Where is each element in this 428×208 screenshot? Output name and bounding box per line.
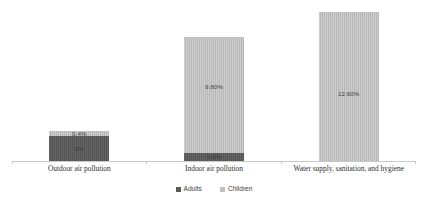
bar-stack-water-supply-sanitation-hygiene[interactable]: 12.60% <box>319 12 379 161</box>
bar-slot-indoor-air-pollution: 9.80% 0.4% <box>147 4 282 161</box>
x-axis-tick-start <box>12 161 13 164</box>
legend-label-adults: Adults <box>184 186 202 193</box>
bar-segment-children-water-supply[interactable]: 12.60% <box>319 12 379 161</box>
bar-stack-indoor-air-pollution[interactable]: 9.80% 0.4% <box>184 37 244 161</box>
category-label-indoor-air-pollution: Indoor air pollution <box>147 165 282 173</box>
bar-label-adults-outdoor: 2% <box>49 145 109 151</box>
stacked-bar-chart: 0.4% 2% 9.80% 0.4% <box>0 0 428 208</box>
legend-item-adults[interactable]: Adults <box>176 186 202 193</box>
legend-swatch-children-icon <box>220 187 225 192</box>
category-label-outdoor-air-pollution: Outdoor air pollution <box>12 165 147 173</box>
chart-legend: Adults Children <box>0 186 428 193</box>
x-axis-tick-1 <box>146 161 147 164</box>
x-axis-tick-2 <box>281 161 282 164</box>
legend-item-children[interactable]: Children <box>220 186 253 193</box>
bar-slot-outdoor-air-pollution: 0.4% 2% <box>12 4 147 161</box>
bar-segment-adults-outdoor[interactable]: 2% <box>49 136 109 161</box>
bar-slot-water-supply-sanitation-hygiene: 12.60% <box>281 4 416 161</box>
bar-label-children-indoor: 9.80% <box>184 84 244 90</box>
bar-label-adults-indoor: 0.4% <box>184 154 244 160</box>
legend-swatch-adults-icon <box>176 187 181 192</box>
bar-label-children-water-supply: 12.60% <box>319 91 379 97</box>
plot-area: 0.4% 2% 9.80% 0.4% <box>12 4 416 161</box>
x-axis-tick-end <box>415 161 416 164</box>
x-axis-category-labels: Outdoor air pollution Indoor air polluti… <box>12 165 416 173</box>
bar-segment-children-indoor[interactable]: 9.80% <box>184 37 244 153</box>
bar-segment-adults-indoor[interactable]: 0.4% <box>184 153 244 161</box>
legend-label-children: Children <box>228 186 253 193</box>
bar-stack-outdoor-air-pollution[interactable]: 0.4% 2% <box>49 131 109 161</box>
x-axis-line <box>12 161 416 162</box>
category-label-water-supply-sanitation-hygiene: Water supply, sanitation, and hygiene <box>281 165 416 173</box>
bars-row: 0.4% 2% 9.80% 0.4% <box>12 4 416 161</box>
